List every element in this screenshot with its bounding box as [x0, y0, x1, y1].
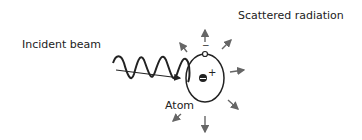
- x-ray-scattering-diagram: Incident beam Scattered radiation Atom −…: [0, 0, 362, 140]
- nucleus-charge-label: +: [208, 67, 216, 78]
- incident-beam-label: Incident beam: [22, 38, 101, 51]
- atom-label: Atom: [165, 99, 194, 112]
- electron-charge-label: −: [202, 40, 210, 50]
- electron-icon: [203, 52, 208, 57]
- scattered-radiation-label: Scattered radiation: [238, 9, 344, 22]
